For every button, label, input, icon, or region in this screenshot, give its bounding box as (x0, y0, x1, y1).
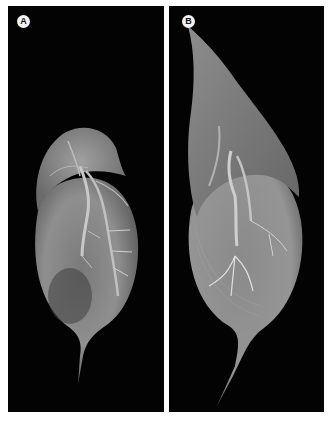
panel-a: A (8, 6, 164, 412)
specimen-b-image (169, 6, 324, 412)
panel-b: B (169, 6, 324, 412)
panel-label-b: B (182, 15, 195, 28)
specimen-a-image (8, 6, 164, 412)
panel-label-a: A (17, 15, 30, 28)
